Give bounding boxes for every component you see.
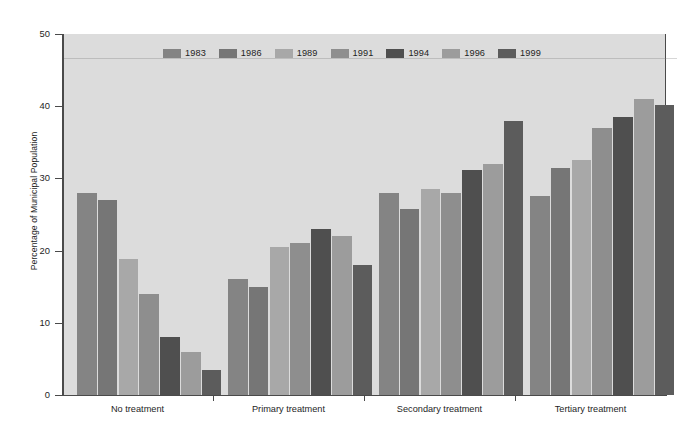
- bar: [379, 193, 399, 395]
- legend-item: 1983: [163, 48, 206, 58]
- legend-swatch-icon: [275, 49, 293, 58]
- legend-label: 1991: [353, 48, 374, 58]
- scan-artifact-line: [62, 58, 677, 59]
- bar: [119, 259, 139, 395]
- bar: [634, 99, 654, 395]
- bar: [77, 193, 97, 395]
- bar: [290, 243, 310, 395]
- bar: [228, 279, 248, 395]
- bar: [181, 352, 201, 395]
- bar: [421, 189, 441, 395]
- bar: [249, 287, 269, 395]
- y-axis-tick-label: 40: [20, 100, 50, 111]
- bar: [592, 128, 612, 395]
- bar: [504, 121, 524, 395]
- legend-label: 1989: [297, 48, 318, 58]
- plot-inner: [62, 34, 665, 395]
- bar: [332, 236, 352, 395]
- legend-swatch-icon: [386, 49, 404, 58]
- bar: [202, 370, 222, 395]
- bar: [655, 105, 675, 395]
- legend-label: 1994: [408, 48, 429, 58]
- bar: [551, 168, 571, 395]
- y-axis-line: [62, 34, 64, 396]
- x-axis-separator: [213, 395, 214, 401]
- y-axis-tick-label: 0: [20, 389, 50, 400]
- legend-label: 1983: [185, 48, 206, 58]
- y-axis-tick-label: 20: [20, 245, 50, 256]
- legend-item: 1986: [219, 48, 262, 58]
- bar: [530, 196, 550, 395]
- bar: [139, 294, 159, 395]
- bar: [270, 247, 290, 395]
- bar: [353, 265, 373, 395]
- bar: [441, 193, 461, 395]
- bar: [572, 160, 592, 395]
- legend-item: 1989: [275, 48, 318, 58]
- y-axis-tick-label: 30: [20, 172, 50, 183]
- x-axis-category-label: No treatment: [111, 404, 164, 414]
- legend-item: 1999: [498, 48, 541, 58]
- legend-label: 1999: [520, 48, 541, 58]
- bar: [483, 164, 503, 395]
- x-axis-separator: [364, 395, 365, 401]
- y-axis-tick: [55, 34, 62, 35]
- legend-swatch-icon: [331, 49, 349, 58]
- bar: [400, 209, 420, 395]
- y-axis-tick: [55, 106, 62, 107]
- legend-item: 1991: [331, 48, 374, 58]
- legend-swatch-icon: [163, 49, 181, 58]
- y-axis-tick: [55, 251, 62, 252]
- legend-swatch-icon: [442, 49, 460, 58]
- x-axis-category-label: Primary treatment: [252, 404, 325, 414]
- bar: [311, 229, 331, 395]
- legend-label: 1986: [241, 48, 262, 58]
- y-axis-title: Percentage of Municipal Population: [29, 81, 39, 321]
- bar: [98, 200, 118, 395]
- bar: [462, 170, 482, 395]
- legend-item: 1996: [442, 48, 485, 58]
- y-axis-tick-label: 50: [20, 28, 50, 39]
- y-axis-tick: [55, 323, 62, 324]
- x-axis-category-label: Tertiary treatment: [555, 404, 626, 414]
- legend-swatch-icon: [498, 49, 516, 58]
- bar-chart: Percentage of Municipal Population 01020…: [0, 0, 677, 434]
- x-axis-category-label: Secondary treatment: [397, 404, 482, 414]
- y-axis-tick: [55, 395, 62, 396]
- legend-swatch-icon: [219, 49, 237, 58]
- legend-item: 1994: [386, 48, 429, 58]
- bar: [613, 117, 633, 395]
- y-axis-tick-label: 10: [20, 317, 50, 328]
- legend: 1983198619891991199419961999: [163, 48, 554, 58]
- y-axis-tick: [55, 178, 62, 179]
- plot-area: [62, 34, 666, 395]
- legend-label: 1996: [464, 48, 485, 58]
- x-axis-separator: [515, 395, 516, 401]
- bar: [160, 337, 180, 395]
